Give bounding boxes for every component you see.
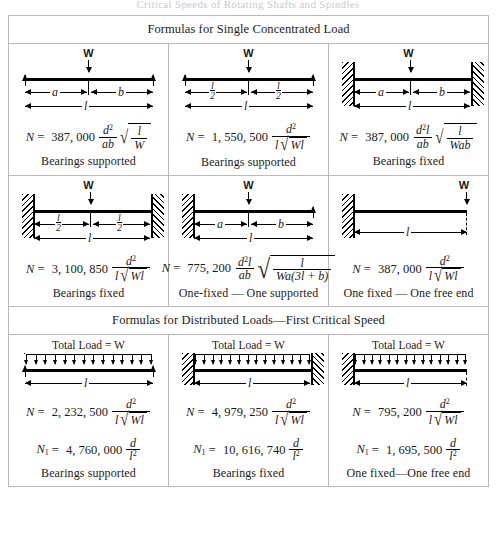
beam-diagram-simply-supported-ab: W a b l [12, 48, 165, 114]
denominator-prefix: l [275, 413, 278, 427]
distributed-load-arrow-icon [36, 354, 37, 364]
support-reaction-arrow-left-icon [185, 75, 186, 86]
distributed-load-arrow-icon [141, 354, 142, 364]
dimension-label-left-half: l 2 [55, 213, 62, 232]
distributed-load-arrow-icon [265, 354, 266, 364]
equation-lhs: N [340, 131, 348, 144]
page-top-partial-text: Critical Speeds of Rotating Shafts and S… [0, 0, 496, 12]
equation-fraction: d l2 [289, 437, 302, 463]
distributed-load-arrow-icon [431, 354, 432, 364]
beam-line [193, 210, 314, 213]
dimension-label-span: l [82, 100, 89, 112]
formula-table-page: Critical Speeds of Rotating Shafts and S… [0, 0, 496, 546]
distributed-load-arrow-icon [465, 354, 466, 364]
support-reaction-arrow-left-icon [25, 366, 26, 377]
equation-n1: N1 = 10, 616, 740 d l2 [172, 437, 325, 463]
fraction-numerator-suffix: l [426, 123, 429, 137]
dimension-label-span: l [404, 377, 411, 389]
equation-n: N = 775, 200 d2l ab √ [172, 255, 325, 283]
equation-lhs: N [26, 406, 34, 419]
distributed-load-arrow-icon [103, 354, 104, 364]
section-heading-row-single: Formulas for Single Concentrated Load [9, 16, 489, 44]
fixed-wall-left-icon [182, 194, 195, 238]
equation-fraction: d2 l√Wl [426, 255, 464, 284]
radicand: Wl [131, 270, 144, 283]
equation-lhs: N [162, 262, 170, 275]
square-root: √ l Wa(3l + b) [257, 255, 335, 283]
load-arrow-icon [248, 60, 249, 72]
dimension-label-span: l [247, 232, 254, 244]
radical-denominator: Wa(3l + b) [276, 269, 328, 283]
cell-caption: Bearings supported [172, 155, 325, 170]
dimension-label-span: l [404, 226, 411, 238]
dimension-label-span: l [246, 377, 253, 389]
cell-caption: Bearings fixed [332, 154, 485, 169]
radical-numerator: l [301, 256, 304, 270]
distributed-load-arrow-icon [45, 354, 46, 364]
radicand: Wl [444, 414, 457, 427]
formula-cell-c8: Total Load = W l N = 4, 979, 250 [169, 335, 329, 487]
radical-denominator: Wab [450, 138, 471, 152]
fraction-denominator: 2 [276, 90, 281, 100]
equation-coefficient: 795, 200 [378, 406, 422, 419]
distributed-load-arrow-icon [292, 354, 293, 364]
distributed-load-arrow-icon [132, 354, 133, 364]
distributed-load-arrow-icon [372, 354, 373, 364]
denominator-prefix: l [115, 269, 118, 283]
fraction-numerator-exponent: 2 [132, 397, 136, 406]
equation-fraction: d2 l√Wl [112, 255, 150, 284]
support-reaction-arrow-left-icon [25, 75, 26, 86]
beam-diagram-distributed-cantilever: Total Load = W l [332, 339, 485, 389]
beam-diagram-both-fixed-halves: W l 2 [12, 180, 165, 246]
distributed-load-arrow-icon [230, 354, 231, 364]
equation-n: N = 3, 100, 850 d2 l√Wl [12, 255, 165, 284]
distributed-load-arrow-icon [389, 354, 390, 364]
equation-fraction: d2 ab [99, 124, 117, 150]
fraction-numerator: l [277, 81, 280, 90]
equation-fraction: d l2 [126, 437, 139, 463]
equation-fraction: d2l ab [413, 124, 432, 150]
fraction-numerator: l [211, 81, 214, 90]
radicand: Wl [291, 139, 304, 152]
dimension-label-left-half: l 2 [209, 81, 216, 100]
support-reaction-arrow-right-icon [313, 75, 314, 86]
equation-fraction: d2 l√Wl [272, 398, 310, 427]
equation-lhs: N [352, 406, 360, 419]
distributed-load-arrow-icon [448, 354, 449, 364]
beam-line [184, 78, 314, 81]
equation-n1: N1 = 4, 760, 000 d l2 [12, 437, 165, 463]
load-station-tick [410, 81, 411, 95]
formula-cell-c7: Total Load = W l N = 2, 2 [9, 335, 169, 487]
equation-n: N = 2, 232, 500 d2 l√Wl [12, 398, 165, 427]
fraction-numerator-exponent: 2 [292, 122, 296, 131]
beam-diagram-both-fixed-ab: W a b l [332, 48, 485, 114]
support-reaction-arrow-right-icon [153, 366, 154, 377]
fixed-wall-left-icon [342, 62, 355, 106]
fraction-numerator-exponent: 2 [292, 397, 296, 406]
load-arrow-icon [90, 192, 91, 204]
distributed-load-arrow-icon [364, 354, 365, 364]
equation-fraction: d2 l√Wl [112, 398, 150, 427]
dimension-label-b: b [116, 86, 126, 98]
radicand: Wl [444, 270, 457, 283]
radical-denominator: W [134, 138, 144, 152]
fraction-denominator: 2 [117, 222, 122, 232]
denominator-prefix: l [275, 138, 278, 152]
equation-coefficient: 387, 000 [51, 131, 95, 144]
equation-fraction: d2l ab [235, 256, 254, 282]
denominator-square-root: √Wl [280, 137, 307, 152]
fraction-denominator-exponent: 2 [133, 449, 137, 458]
denominator-square-root: √Wl [120, 268, 147, 283]
equation-n: N = 387, 000 d2l ab √ [332, 123, 485, 151]
distributed-load-arrow-icon [213, 354, 214, 364]
equation-lhs: N [193, 442, 201, 456]
beam-line [24, 369, 154, 372]
denominator-square-root: √Wl [434, 268, 461, 283]
beam-diagram-distributed-both-fixed: Total Load = W l [172, 339, 325, 389]
equation-n: N = 795, 200 d2 l√Wl [332, 398, 485, 427]
distributed-load-arrow-icon [300, 354, 301, 364]
distributed-load-arrow-icon [55, 354, 56, 364]
beam-line [353, 78, 472, 81]
total-load-label: Total Load = W [12, 339, 165, 353]
load-label: W [12, 48, 165, 60]
